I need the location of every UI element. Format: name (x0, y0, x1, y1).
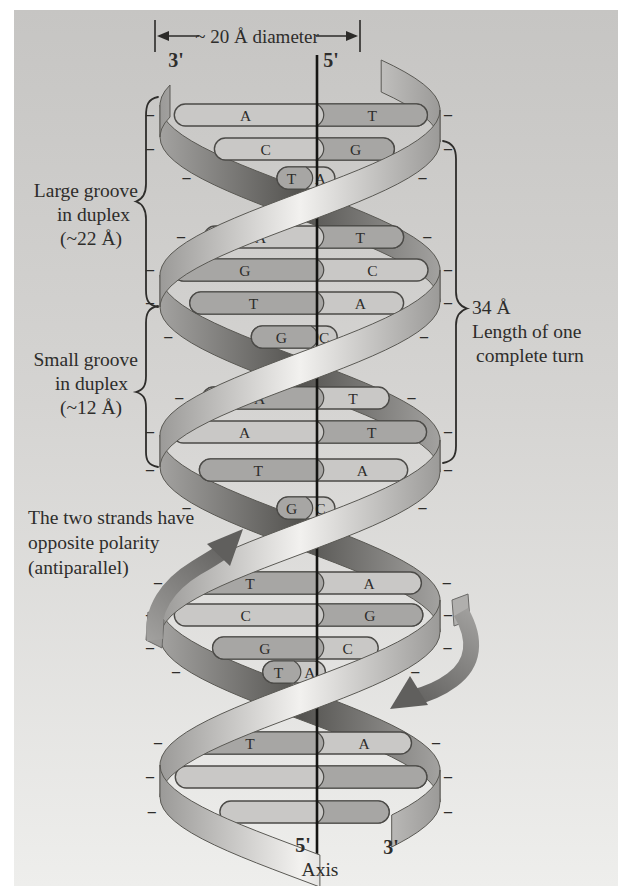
base-letter: G (350, 141, 361, 158)
base-letter: T (367, 107, 377, 124)
phosphate-charge-right: – (443, 294, 453, 311)
base-letter: T (367, 424, 377, 441)
base-pair-rod-dark-half (317, 766, 427, 788)
base-letter: A (359, 735, 371, 752)
large-groove-label-line1: Large groove (34, 180, 138, 201)
base-pair-rod-dark-half (317, 801, 389, 823)
base-letter: T (253, 462, 263, 479)
antiparallel-label-line3: (antiparallel) (28, 557, 129, 579)
large-groove-label-line3: (~22 Å) (60, 228, 122, 250)
turn-label-line3: complete turn (476, 345, 584, 366)
base-letter: T (249, 295, 259, 312)
phosphate-charge-left: – (176, 228, 186, 245)
base-letter: G (276, 329, 287, 346)
base-letter: G (286, 500, 297, 517)
base-letter: T (348, 390, 358, 407)
phosphate-charge-left: – (163, 328, 173, 345)
base-letter: T (274, 664, 284, 681)
phosphate-charge-right: – (443, 106, 453, 123)
small-groove-label-line3: (~12 Å) (60, 397, 122, 419)
phosphate-charge-left: – (171, 663, 181, 680)
base-letter: A (239, 424, 251, 441)
phosphate-charge-left: – (145, 768, 155, 785)
base-letter: G (364, 607, 375, 624)
base-letter: A (357, 462, 369, 479)
phosphate-charge-left: – (182, 169, 192, 186)
large-groove-label-line2: in duplex (57, 204, 130, 225)
base-letter: G (239, 262, 250, 279)
strand-end-3prime-top: 3' (168, 49, 184, 71)
turn-label-line2: Length of one (472, 321, 581, 342)
strand-end-5prime-top: 5' (323, 49, 339, 71)
phosphate-charge-right: – (443, 768, 453, 785)
phosphate-charge-right: – (443, 639, 453, 656)
base-letter: A (355, 295, 367, 312)
axis-label: Axis (302, 859, 339, 880)
small-groove-label-line2: in duplex (55, 373, 128, 394)
phosphate-charge-right: – (443, 423, 453, 440)
base-letter: T (287, 170, 297, 187)
base-letter: T (245, 575, 255, 592)
phosphate-charge-right: – (422, 228, 432, 245)
base-letter: C (367, 262, 377, 279)
dna-structure-figure: AT––CG––TA––AT––GC––TA––GC––AT––AT––TA––… (0, 0, 618, 886)
figure-canvas: AT––CG––TA––AT––GC––TA––GC––AT––AT––TA––… (0, 0, 618, 886)
strand-end-3prime-bottom: 3' (383, 836, 399, 858)
base-letter: G (259, 640, 270, 657)
diameter-label: ~ 20 Å diameter (195, 26, 319, 47)
phosphate-charge-right: – (431, 734, 441, 751)
base-letter: C (342, 640, 352, 657)
turn-label-line1: 34 Å (472, 297, 510, 318)
phosphate-charge-right: – (442, 574, 452, 591)
phosphate-charge-right: – (407, 389, 417, 406)
base-letter: A (240, 107, 252, 124)
base-letter: T (356, 229, 366, 246)
base-letter: C (261, 141, 271, 158)
antiparallel-label-line1: The two strands have (28, 507, 194, 528)
phosphate-charge-right: – (443, 803, 453, 820)
phosphate-charge-left: – (147, 803, 157, 820)
strand-end-5prime-bottom: 5' (295, 834, 311, 856)
phosphate-charge-right: – (443, 261, 453, 278)
base-letter: C (241, 607, 251, 624)
small-groove-label-line1: Small groove (33, 349, 138, 370)
phosphate-charge-left: – (174, 389, 184, 406)
phosphate-charge-left: – (153, 734, 163, 751)
phosphate-charge-right: – (443, 606, 453, 623)
antiparallel-label-line2: opposite polarity (28, 532, 160, 553)
base-letter: T (245, 735, 255, 752)
base-letter: A (364, 575, 376, 592)
